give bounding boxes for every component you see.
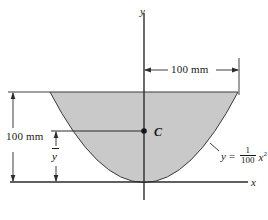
x-axis-label: x [251, 177, 256, 188]
dim-arrowhead-top-right [232, 68, 239, 73]
equation-lhs: y [221, 150, 226, 162]
equation-exponent: 2 [264, 150, 268, 158]
dimension-label-total-height: 100 mm [6, 131, 44, 142]
equation-equals-sign: = [229, 150, 235, 162]
equation-variable-term: x2 [259, 150, 267, 163]
y-axis-label: y [140, 6, 145, 17]
centroid-marker-dot [141, 128, 147, 134]
equation-denominator: 100 [240, 155, 256, 165]
ybar-letter: y [52, 150, 57, 162]
equation-leader-line [210, 143, 219, 151]
dimension-label-centroid-height: y [52, 148, 59, 162]
dim-arrowhead-top-left [144, 68, 151, 73]
equation-numerator: 1 [245, 146, 252, 155]
dimension-label-half-width: 100 mm [171, 64, 209, 75]
figure-vector-canvas [0, 0, 268, 220]
dim-arrowhead-ybar-top [54, 131, 59, 138]
curve-equation: y = 1 100 x2 [221, 146, 267, 166]
centroid-label: C [154, 126, 162, 138]
ybar-overbar [52, 148, 59, 149]
dim-arrowhead-left-bottom [11, 175, 16, 182]
dim-arrowhead-left-top [11, 92, 16, 99]
equation-fraction: 1 100 [240, 146, 256, 166]
parabolic-segment-centroid-figure: y x 100 mm 100 mm y C y = 1 100 x2 [0, 0, 268, 220]
dim-arrowhead-ybar-bottom [54, 175, 59, 182]
